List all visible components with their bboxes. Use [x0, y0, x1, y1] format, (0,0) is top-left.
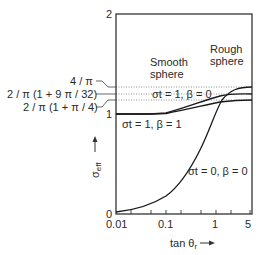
annotation-smooth-2: sphere [150, 68, 184, 80]
ref-label-9pi32: 2 / π (1 + 9 π / 32) [7, 88, 97, 100]
x-tick-5: 5 [245, 218, 251, 230]
annotation-rough-2: sphere [210, 55, 244, 67]
curves [116, 87, 252, 212]
x-tick-0.01: 0.01 [106, 218, 127, 230]
series-label-sigma0-beta0: σt = 0, β = 0 [188, 165, 248, 177]
y-axis-label: σeff [89, 136, 103, 178]
y-tick-2: 2 [106, 8, 112, 20]
ref-label-pi4: 2 / π (1 + π / 4) [23, 101, 98, 113]
annotation-rough: Rough [210, 43, 242, 55]
y-tick-1: 1 [106, 108, 112, 120]
series-label-sigma1-beta0: σt = 1, β = 0 [152, 88, 212, 100]
series-label-sigma1-beta1: σt = 1, β = 1 [122, 118, 182, 130]
svg-text:σeff: σeff [89, 162, 103, 178]
arrow-right-icon [209, 241, 215, 246]
x-tick-1: 1 [212, 218, 218, 230]
x-axis-label: tan θr [170, 237, 215, 251]
ref-label-4-over-pi: 4 / π [70, 75, 93, 87]
svg-text:tan θr: tan θr [170, 237, 197, 251]
leader-lines [96, 81, 116, 107]
arrow-up-icon [93, 136, 98, 142]
annotation-smooth: Smooth [150, 56, 188, 68]
x-tick-0.1: 0.1 [158, 218, 173, 230]
curve-sigma0-beta0 [116, 87, 252, 212]
chart: 2 1 0 0.01 0.1 1 5 4 / π 2 / π (1 + 9 π … [0, 0, 266, 255]
